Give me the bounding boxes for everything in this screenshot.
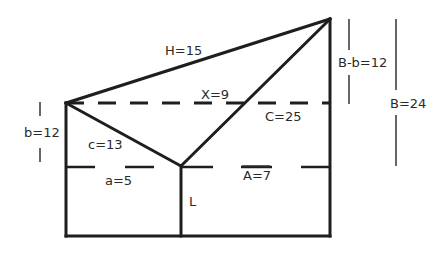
diagram-canvas: H=15 X=9 C=25 c=13 a=5 A=7 L b=12 B-b=12… — [0, 0, 436, 253]
label-b: b=12 — [24, 125, 60, 140]
label-L: L — [189, 194, 197, 209]
geometry-diagram: H=15 X=9 C=25 c=13 a=5 A=7 L b=12 B-b=12… — [0, 0, 436, 253]
label-H: H=15 — [165, 43, 202, 58]
label-X: X=9 — [201, 87, 229, 102]
label-a: a=5 — [105, 173, 132, 188]
label-A: A=7 — [243, 168, 271, 183]
segment-c — [66, 103, 181, 166]
label-C: C=25 — [265, 109, 302, 124]
label-c: c=13 — [88, 137, 123, 152]
hypotenuse-H — [66, 19, 330, 103]
label-B-minus-b: B-b=12 — [338, 55, 387, 70]
label-B: B=24 — [390, 96, 426, 111]
